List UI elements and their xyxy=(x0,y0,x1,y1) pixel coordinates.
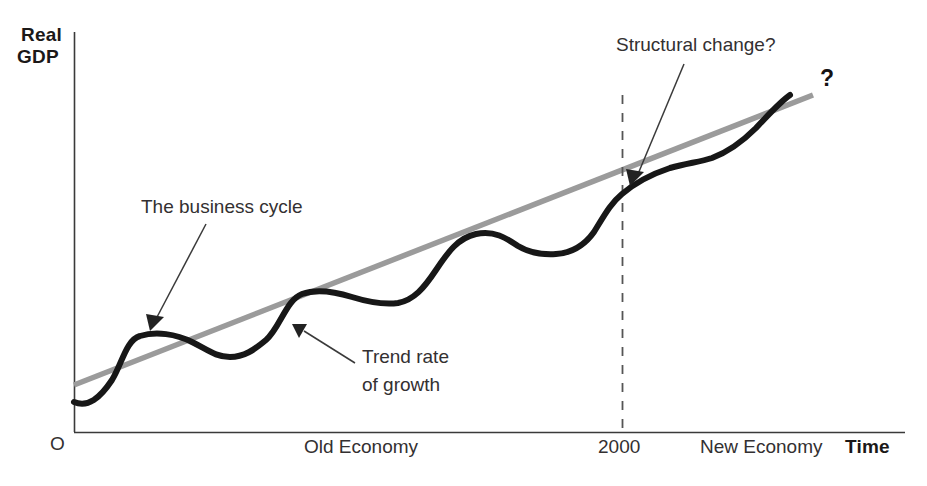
question-mark-label: ? xyxy=(820,66,834,90)
x-tick-new-economy: New Economy xyxy=(700,437,823,457)
y-axis-title-line1: Real xyxy=(21,25,62,45)
origin-label: O xyxy=(50,434,65,454)
business-cycle-label: The business cycle xyxy=(141,197,303,217)
y-axis-title-line2: GDP xyxy=(17,47,59,67)
structural-change-label: Structural change? xyxy=(616,35,776,55)
trend-rate-label-line2: of growth xyxy=(362,375,440,395)
x-tick-year-2000: 2000 xyxy=(598,437,640,457)
chart-canvas xyxy=(0,0,927,486)
business-cycle-callout-arrow xyxy=(146,224,206,331)
business-cycle-diagram: Real GDP The business cycle Trend rate o… xyxy=(0,0,927,486)
x-tick-old-economy: Old Economy xyxy=(304,437,418,457)
trend-rate-label-line1: Trend rate xyxy=(362,347,449,367)
x-axis-title: Time xyxy=(845,437,890,457)
trend-growth-callout-arrow xyxy=(292,324,355,363)
